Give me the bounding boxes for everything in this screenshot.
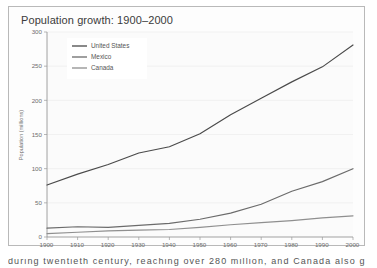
chart-legend: United StatesMexicoCanada (67, 38, 147, 79)
x-tick-label: 1930 (131, 241, 145, 247)
y-axis-label: Population (millions) (18, 110, 24, 161)
x-tick-label: 2000 (346, 241, 360, 247)
y-axis-ticks: 050100150200250300 (32, 28, 47, 240)
x-tick-label: 1910 (70, 241, 84, 247)
chart-figure: Population growth: 1900–2000 05010015020… (8, 6, 365, 246)
x-tick-label: 1950 (193, 241, 207, 247)
y-tick-label: 250 (32, 62, 43, 69)
y-tick-label: 300 (32, 28, 43, 35)
x-tick-label: 1940 (162, 241, 176, 247)
y-tick-label: 200 (32, 97, 43, 104)
population-growth-line-chart: 050100150200250300 190019101920193019401… (9, 7, 366, 247)
caption-strip: during twentieth century, reaching over … (8, 258, 365, 268)
x-axis-ticks: 1900191019201930194019501960197019801990… (40, 237, 360, 247)
y-tick-label: 0 (39, 233, 43, 240)
legend-label-canada: Canada (91, 64, 114, 71)
legend-label-mexico: Mexico (91, 53, 112, 60)
x-tick-label: 1960 (223, 241, 237, 247)
x-tick-label: 1980 (284, 241, 298, 247)
caption-text: during twentieth century, reaching over … (8, 258, 365, 266)
y-tick-label: 150 (32, 131, 43, 138)
y-tick-label: 50 (35, 199, 42, 206)
x-tick-label: 1990 (315, 241, 329, 247)
y-tick-label: 100 (32, 165, 43, 172)
legend-label-united-states: United States (91, 42, 129, 49)
x-tick-label: 1970 (254, 241, 268, 247)
x-tick-label: 1900 (40, 241, 54, 247)
x-tick-label: 1920 (101, 241, 115, 247)
